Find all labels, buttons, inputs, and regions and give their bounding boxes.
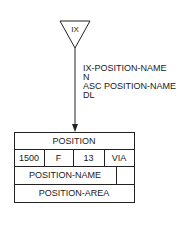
annotation-line-1: IX-POSITION-NAME: [83, 63, 167, 73]
record-type: F: [44, 149, 73, 166]
record-name: POSITION: [14, 132, 134, 149]
arrowhead-icon: [72, 124, 78, 132]
record-field-name: POSITION-NAME: [14, 166, 116, 184]
annotation-line-4: DL: [83, 90, 95, 100]
record-id: 13: [73, 149, 104, 166]
record-location-mode: VIA: [104, 149, 134, 166]
annotation-line-3: ASC POSITION-NAME: [83, 81, 176, 91]
record-field-area: POSITION-AREA: [14, 184, 134, 202]
record-length: 1500: [14, 149, 44, 166]
index-label: IX: [60, 23, 90, 35]
